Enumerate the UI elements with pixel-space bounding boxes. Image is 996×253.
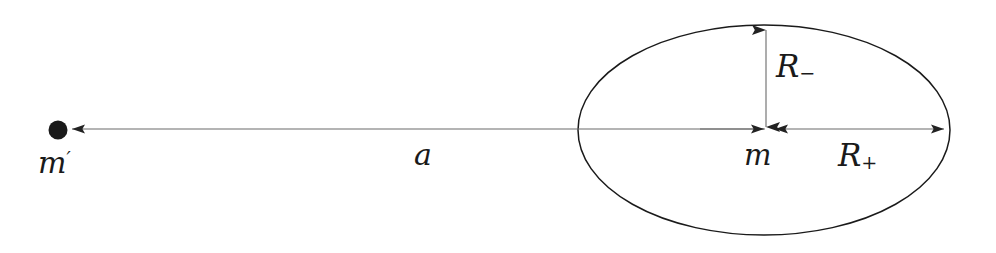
tidally-distorted-body xyxy=(578,25,950,235)
label-radius-minus: R− xyxy=(776,51,815,84)
label-primary-mass-m: m xyxy=(744,141,772,170)
tidal-geometry-figure: m′ a m R− R+ xyxy=(0,0,996,253)
diagram-canvas xyxy=(0,0,996,253)
label-m-prime: m′ xyxy=(38,148,71,178)
filled-circle-mass xyxy=(49,121,68,140)
label-radius-plus: R+ xyxy=(838,140,877,173)
label-separation-a: a xyxy=(414,140,432,170)
